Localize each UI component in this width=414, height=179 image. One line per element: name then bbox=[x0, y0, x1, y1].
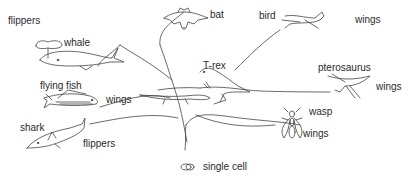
trex-icon bbox=[200, 68, 250, 104]
label-shark: shark bbox=[20, 122, 44, 133]
label-flippers-top: flippers bbox=[8, 15, 40, 26]
label-pterosaurus: pterosaurus bbox=[318, 62, 371, 73]
label-flying-fish: flying fish bbox=[40, 80, 82, 91]
cell-icon bbox=[181, 164, 194, 170]
flying-fish-icon bbox=[44, 90, 98, 108]
pterosaurus-icon bbox=[328, 74, 370, 98]
label-whale: whale bbox=[64, 37, 90, 48]
wasp-icon bbox=[282, 108, 302, 138]
label-trex: T-rex bbox=[203, 60, 226, 71]
lizard-icon bbox=[140, 95, 210, 104]
tree-branches bbox=[90, 12, 330, 150]
bird-icon bbox=[282, 12, 324, 28]
bat-icon bbox=[164, 8, 208, 30]
label-wings-wasp: wings bbox=[303, 128, 329, 139]
label-single-cell: single cell bbox=[203, 161, 247, 172]
label-wings-ptero: wings bbox=[376, 81, 402, 92]
label-bat: bat bbox=[210, 9, 224, 20]
label-flippers-shark: flippers bbox=[83, 138, 115, 149]
label-wings-fish: wings bbox=[106, 94, 132, 105]
label-wings-bird: wings bbox=[355, 14, 381, 25]
label-bird: bird bbox=[259, 10, 276, 21]
label-wasp: wasp bbox=[309, 106, 332, 117]
